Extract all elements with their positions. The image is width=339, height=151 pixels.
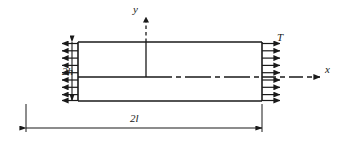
y-axis-label: y [133, 3, 138, 15]
height-dimension-label: 2h [62, 65, 73, 77]
length-dimension-label: 2l [130, 112, 139, 124]
diagram-canvas: y x T 2h 2l [0, 0, 339, 151]
x-axis-label: x [325, 63, 330, 75]
tension-load-label: T [277, 31, 283, 43]
diagram-svg [0, 0, 339, 151]
traction-arrows-right [262, 44, 280, 101]
strip-outline [78, 42, 262, 101]
length-dimension [26, 104, 262, 132]
